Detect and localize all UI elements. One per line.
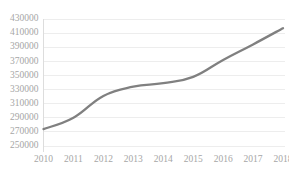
x-axis-tick-label: 2016 bbox=[214, 154, 233, 164]
x-axis-tick-label: 2017 bbox=[244, 154, 263, 164]
line-chart: 2500002700002900003100003300003500003700… bbox=[0, 0, 289, 177]
chart-canvas: 2500002700002900003100003300003500003700… bbox=[0, 0, 289, 177]
x-axis-tick-labels: 201020112012201320142015201620172018 bbox=[34, 154, 289, 164]
y-axis-tick-label: 330000 bbox=[10, 84, 39, 94]
y-axis-tick-label: 430000 bbox=[10, 13, 39, 23]
y-axis-tick-label: 310000 bbox=[10, 98, 39, 108]
y-axis-tick-label: 350000 bbox=[10, 70, 39, 80]
x-axis-tick-label: 2018 bbox=[274, 154, 290, 164]
y-axis-tick-label: 270000 bbox=[10, 126, 39, 136]
x-axis-tick-label: 2010 bbox=[34, 154, 53, 164]
x-axis-tick-label: 2011 bbox=[64, 154, 83, 164]
x-axis-tick-label: 2015 bbox=[184, 154, 203, 164]
y-axis-tick-label: 390000 bbox=[10, 41, 39, 51]
y-axis-tick-label: 290000 bbox=[10, 112, 39, 122]
x-axis-tick-label: 2013 bbox=[124, 154, 143, 164]
x-axis-tick-label: 2012 bbox=[94, 154, 113, 164]
y-axis-tick-label: 410000 bbox=[10, 27, 39, 37]
y-axis-tick-label: 370000 bbox=[10, 56, 39, 66]
x-axis-tick-label: 2014 bbox=[154, 154, 173, 164]
y-axis-tick-label: 250000 bbox=[10, 140, 39, 150]
